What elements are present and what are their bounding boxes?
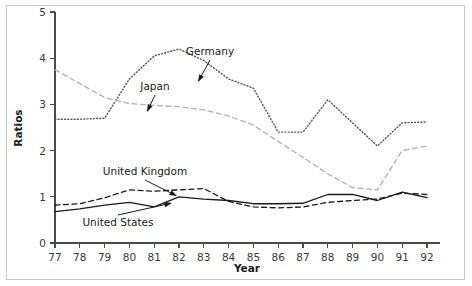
x-tick-label: 91 bbox=[396, 251, 409, 263]
x-axis-title: Year bbox=[233, 262, 261, 274]
y-tick-label: 5 bbox=[39, 6, 46, 18]
y-tick-label: 3 bbox=[39, 98, 46, 110]
y-tick-label: 0 bbox=[39, 237, 46, 249]
series-line-united-states bbox=[55, 192, 427, 211]
x-tick-label: 77 bbox=[48, 251, 61, 263]
annotation-arrowhead-germany bbox=[198, 74, 204, 82]
chart-figure: 012345 77787980818283848586878889909192 … bbox=[0, 0, 472, 286]
series-annotations-group: GermanyJapanUnited KingdomUnited States bbox=[82, 45, 234, 228]
x-tick-label: 90 bbox=[371, 251, 384, 263]
y-axis-title: Ratios bbox=[12, 109, 24, 146]
x-tick-label: 86 bbox=[272, 251, 286, 263]
annotation-arrowhead-united-kingdom bbox=[169, 190, 177, 196]
line-chart-plot: 012345 77787980818283848586878889909192 … bbox=[0, 0, 472, 286]
x-axis-ticks: 77787980818283848586878889909192 bbox=[48, 243, 433, 263]
x-tick-label: 92 bbox=[420, 251, 433, 263]
x-tick-label: 78 bbox=[73, 251, 86, 263]
data-series-group bbox=[55, 49, 427, 212]
x-tick-label: 79 bbox=[98, 251, 111, 263]
series-label-united-kingdom: United Kingdom bbox=[103, 165, 187, 177]
x-tick-label: 80 bbox=[123, 251, 136, 263]
series-label-united-states: United States bbox=[82, 216, 153, 228]
series-line-germany bbox=[55, 49, 427, 146]
x-tick-label: 87 bbox=[296, 251, 309, 263]
series-label-germany: Germany bbox=[186, 45, 234, 57]
y-axis-ticks: 012345 bbox=[39, 6, 55, 249]
x-tick-label: 88 bbox=[321, 251, 334, 263]
y-tick-label: 2 bbox=[39, 145, 46, 157]
x-tick-label: 81 bbox=[148, 251, 161, 263]
x-tick-label: 82 bbox=[172, 251, 185, 263]
x-tick-label: 89 bbox=[346, 251, 359, 263]
y-tick-label: 4 bbox=[39, 52, 46, 64]
annotation-arrowhead-united-states bbox=[164, 202, 172, 207]
series-label-japan: Japan bbox=[139, 80, 169, 92]
y-tick-label: 1 bbox=[39, 191, 46, 203]
x-tick-label: 83 bbox=[197, 251, 210, 263]
